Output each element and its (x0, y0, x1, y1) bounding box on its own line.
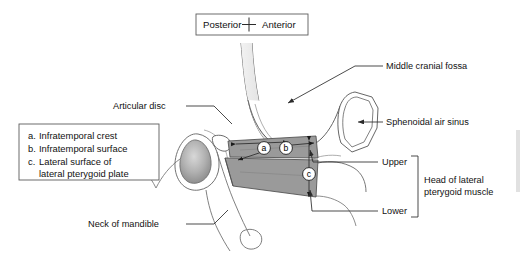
marker-c-letter: c (307, 169, 312, 179)
marker-b-letter: b (284, 143, 289, 153)
legend-item-c-key: c. (28, 156, 35, 167)
leader-articular-disc (186, 106, 232, 124)
label-articular-disc: Articular disc (113, 101, 166, 111)
bone-fragment-lower (240, 229, 262, 249)
upper-head-muscle (228, 136, 318, 158)
label-upper: Upper (382, 157, 407, 167)
leader-upper-head (310, 150, 378, 162)
leader-lower-head (310, 190, 378, 211)
legend-item-c-continued: lateral pterygoid plate (39, 168, 129, 179)
marker-a-letter: a (262, 143, 267, 153)
label-sphenoidal-air-sinus: Sphenoidal air sinus (386, 117, 469, 127)
pterygoid-plate-region (311, 155, 366, 226)
legend-box: a. Infratemporal crest b. Infratemporal … (19, 124, 159, 180)
legend-item-b-key: b. (28, 143, 36, 154)
label-lower: Lower (382, 206, 407, 216)
scan-artifact-right-edge (516, 130, 520, 192)
legend-item-a-key: a. (28, 130, 36, 141)
head-of-muscle-bracket (411, 156, 418, 217)
legend-item-a-text: Infratemporal crest (39, 130, 118, 141)
leader-neck-of-mandible (186, 210, 228, 224)
orientation-anterior-label: Anterior (262, 19, 296, 30)
anatomy-figure: a b c Posterior (0, 0, 523, 255)
label-head-of-muscle-line2: pterygoid muscle (424, 187, 493, 197)
legend-item-b-text: Infratemporal surface (39, 143, 128, 154)
label-head-of-muscle-line1: Head of lateral (424, 175, 484, 185)
marker-c: c (303, 168, 316, 181)
marker-a: a (258, 142, 271, 155)
legend-item-c-text: Lateral surface of (39, 156, 112, 167)
label-neck-of-mandible: Neck of mandible (88, 219, 159, 229)
orientation-posterior-label: Posterior (203, 19, 242, 30)
figure-canvas: a b c Posterior (0, 0, 523, 255)
label-middle-cranial-fossa: Middle cranial fossa (386, 61, 468, 71)
marker-b: b (280, 142, 293, 155)
orientation-box: Posterior Anterior (196, 14, 308, 35)
